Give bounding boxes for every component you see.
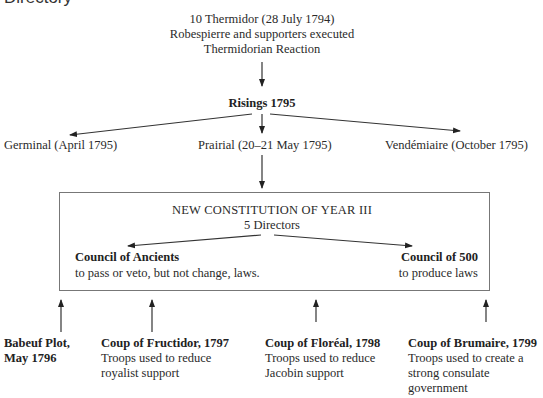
constitution-title: NEW CONSTITUTION OF YEAR III: [122, 203, 422, 218]
brumaire-line-1: Troops used to create a: [408, 351, 524, 366]
thermidorian-reaction: Thermidorian Reaction: [162, 42, 362, 57]
babeuf-plot-title: Babeuf Plot,: [4, 336, 70, 351]
thermidor-date: 10 Thermidor (28 July 1794): [162, 12, 362, 27]
council-ancients-desc: to pass or veto, but not change, laws.: [75, 266, 260, 281]
fructidor-line-1: Troops used to reduce: [101, 351, 211, 366]
fructidor-line-2: royalist support: [101, 366, 179, 381]
babeuf-plot-date: May 1796: [4, 351, 56, 366]
branch-germinal: Germinal (April 1795): [4, 138, 117, 153]
brumaire-title: Coup of Brumaire, 1799: [408, 336, 537, 351]
council-500-title: Council of 500: [378, 250, 478, 265]
floreal-line-1: Troops used to reduce: [265, 351, 375, 366]
council-ancients-title: Council of Ancients: [75, 250, 179, 265]
directors-label: 5 Directors: [212, 218, 332, 233]
floreal-line-2: Jacobin support: [265, 366, 344, 381]
risings-title: Risings 1795: [212, 96, 312, 111]
branch-vendemiaire: Vendémiaire (October 1795): [385, 138, 528, 153]
brumaire-line-2: strong consulate: [408, 366, 490, 381]
branch-prairial: Prairial (20–21 May 1795): [198, 138, 332, 153]
robespierre-executed: Robespierre and supporters executed: [142, 27, 382, 42]
floreal-title: Coup of Floréal, 1798: [265, 336, 380, 351]
fructidor-title: Coup of Fructidor, 1797: [101, 336, 229, 351]
council-500-desc: to produce laws: [378, 266, 478, 281]
brumaire-line-3: government: [408, 381, 468, 396]
